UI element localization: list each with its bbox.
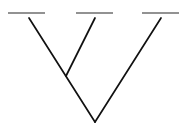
cladogram-diagram (0, 0, 185, 134)
branch-middle (66, 18, 95, 76)
branch-left (29, 18, 95, 122)
branch-right (95, 18, 161, 122)
cladogram-svg (0, 0, 185, 134)
